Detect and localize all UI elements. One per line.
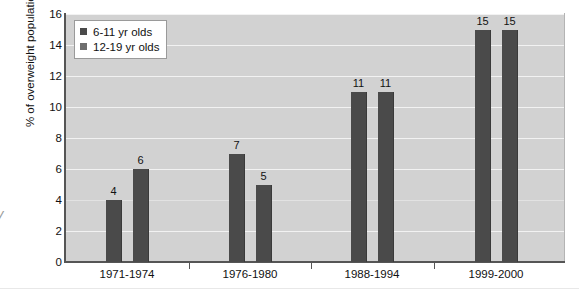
y-axis-title: % of overweight population <box>24 0 36 158</box>
x-axis-tick-mark <box>311 262 312 269</box>
bar <box>475 30 491 263</box>
legend-item: 12-19 yr olds <box>80 39 159 54</box>
legend: 6-11 yr olds 12-19 yr olds <box>74 20 167 59</box>
bar-value-label: 7 <box>233 139 239 151</box>
legend-swatch-icon <box>80 28 87 35</box>
plot-right-border <box>564 13 565 263</box>
x-axis-tick-label: 1988-1994 <box>345 268 400 280</box>
bar-value-label: 15 <box>476 15 488 27</box>
bar-value-label: 11 <box>353 77 364 89</box>
bar-value-label: 6 <box>137 154 143 166</box>
bar <box>351 92 367 263</box>
bar <box>133 169 149 262</box>
bar-value-label: 11 <box>380 77 391 89</box>
legend-swatch-icon <box>80 43 87 50</box>
legend-item-label: 12-19 yr olds <box>93 41 159 53</box>
gridline <box>66 14 565 15</box>
bar-chart: 1614121086420 % of overweight population… <box>0 0 579 296</box>
x-axis-tick-label: 1976-1980 <box>223 268 278 280</box>
bar <box>378 92 394 263</box>
x-axis-tick-mark <box>434 262 435 269</box>
legend-item-label: 6-11 yr olds <box>93 26 152 38</box>
bar <box>256 185 272 263</box>
y-axis-tick-label: 6 <box>4 163 62 175</box>
y-axis-tick-label: 4 <box>4 194 62 206</box>
bottom-divider <box>0 288 579 289</box>
cropped-edge-glyph: y <box>0 206 4 221</box>
y-axis-tick-label: 2 <box>4 225 62 237</box>
legend-item: 6-11 yr olds <box>80 24 159 39</box>
bar <box>502 30 518 263</box>
x-axis-tick-label: 1999-2000 <box>469 268 524 280</box>
bar-value-label: 4 <box>110 185 116 197</box>
x-axis-tick-label: 1971-1974 <box>100 268 155 280</box>
bar-value-label: 5 <box>260 170 266 182</box>
x-axis-tick-mark <box>189 262 190 269</box>
bar-value-label: 15 <box>503 15 515 27</box>
y-axis-line <box>64 13 66 263</box>
bar <box>229 154 245 263</box>
bar <box>106 200 122 262</box>
y-axis-tick-label: 0 <box>4 256 62 268</box>
